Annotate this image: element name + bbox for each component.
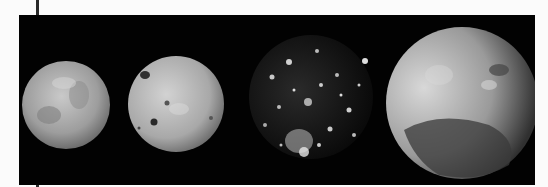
moon-3 — [249, 35, 373, 159]
moons-illustration — [19, 15, 535, 185]
moon-2 — [128, 56, 224, 152]
moons-photograph — [19, 15, 535, 185]
moon-1 — [22, 61, 110, 149]
moon-4 — [386, 27, 535, 179]
vertical-rule-top — [36, 0, 39, 15]
